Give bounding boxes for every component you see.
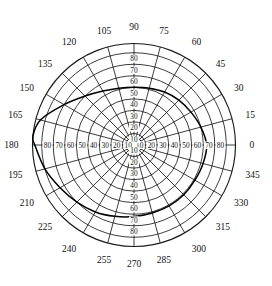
angular-tick-label-330: 330 <box>234 198 249 208</box>
radial-tick-label-270-30: 30 <box>130 169 138 178</box>
radial-tick-label-180-70: 70 <box>55 141 63 150</box>
radial-tick-label-180-80: 80 <box>44 141 52 150</box>
angular-tick-label-240: 240 <box>62 244 77 254</box>
angular-tick-label-135: 135 <box>38 59 53 69</box>
radial-tick-label-90-50: 50 <box>130 89 138 98</box>
angular-tick-label-195: 195 <box>8 170 23 180</box>
angular-tick-label-105: 105 <box>97 26 112 36</box>
grid-spoke-315 <box>140 151 206 217</box>
angular-tick-label-150: 150 <box>20 83 35 93</box>
radial-tick-label-0-70: 70 <box>205 141 213 150</box>
radial-tick-label-180-20: 20 <box>113 141 121 150</box>
radial-tick-label-270-50: 50 <box>130 193 138 202</box>
angular-tick-label-120: 120 <box>62 37 77 47</box>
angular-tick-label-315: 315 <box>216 222 231 232</box>
radial-tick-label-180-30: 30 <box>102 141 110 150</box>
radial-tick-label-270-40: 40 <box>130 181 138 190</box>
angular-tick-label-300: 300 <box>192 244 207 254</box>
radial-tick-label-90-20: 20 <box>130 123 138 132</box>
radial-tick-label-0-20: 20 <box>148 141 156 150</box>
angular-tick-label-345: 345 <box>246 170 261 180</box>
radial-tick-label-270-20: 20 <box>130 158 138 167</box>
radial-tick-label-90-70: 70 <box>130 66 138 75</box>
radial-tick-label-0-30: 30 <box>159 141 167 150</box>
angular-tick-label-165: 165 <box>8 110 23 120</box>
angular-tick-label-270: 270 <box>127 259 142 269</box>
angular-tick-label-255: 255 <box>97 255 112 265</box>
angular-tick-label-30: 30 <box>234 83 244 93</box>
radial-tick-label-0-40: 40 <box>171 141 179 150</box>
radial-tick-label-180-50: 50 <box>78 141 86 150</box>
angular-tick-label-60: 60 <box>192 37 202 47</box>
radial-tick-label-0-80: 80 <box>217 141 225 150</box>
angular-tick-label-285: 285 <box>157 255 172 265</box>
angular-tick-label-180: 180 <box>4 140 19 150</box>
radial-tick-label-90-30: 30 <box>130 112 138 121</box>
radial-tick-label-0-50: 50 <box>182 141 190 150</box>
radial-tick-label-270-10: 10 <box>130 146 138 155</box>
radial-tick-label-90-40: 40 <box>130 100 138 109</box>
radial-tick-label-90-60: 60 <box>130 77 138 86</box>
angular-tick-label-75: 75 <box>159 26 169 36</box>
radial-tick-label-90-80: 80 <box>130 54 138 63</box>
grid-spoke-45 <box>140 73 206 139</box>
polar-chart: 1020304050607080102030405060708010203040… <box>0 0 272 286</box>
radial-tick-label-270-80: 80 <box>130 227 138 236</box>
polar-plot-svg: 1020304050607080102030405060708010203040… <box>0 0 272 286</box>
radial-tick-label-0-60: 60 <box>194 141 202 150</box>
radial-tick-label-270-70: 70 <box>130 216 138 225</box>
angular-tick-label-45: 45 <box>216 59 226 69</box>
radial-tick-label-180-40: 40 <box>90 141 98 150</box>
grid-spoke-225 <box>62 151 128 217</box>
angular-tick-label-0: 0 <box>250 140 255 150</box>
angular-tick-label-210: 210 <box>20 198 35 208</box>
grid-spoke-135 <box>62 73 128 139</box>
angular-tick-label-15: 15 <box>246 110 256 120</box>
angular-tick-label-90: 90 <box>129 22 139 32</box>
radial-tick-label-270-60: 60 <box>130 204 138 213</box>
radial-tick-label-180-60: 60 <box>67 141 75 150</box>
angular-tick-label-225: 225 <box>38 222 53 232</box>
